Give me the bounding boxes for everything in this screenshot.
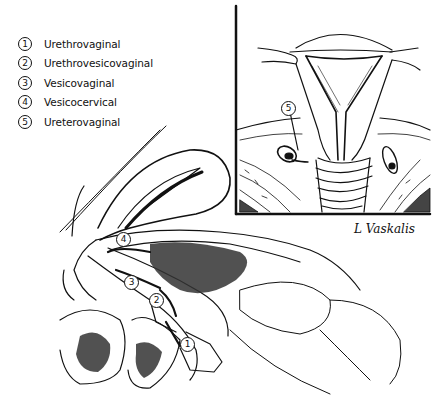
callout-5: 5 [281, 101, 296, 116]
inset-frame [236, 6, 430, 214]
pubic-symphysis-area [230, 282, 401, 394]
inset-vagina [316, 158, 372, 212]
inset-uterus [236, 34, 430, 160]
callout-1: 1 [180, 337, 195, 352]
artist-signature: L Vaskalis [354, 222, 415, 236]
callout-4: 4 [116, 232, 131, 247]
callout-2: 2 [149, 293, 164, 308]
inset-pelvic-wall [240, 160, 430, 212]
anatomical-illustration [0, 0, 441, 404]
callout-3: 3 [124, 275, 139, 290]
